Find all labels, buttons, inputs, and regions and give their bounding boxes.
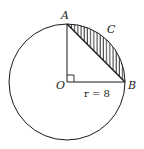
label-C: C (107, 23, 116, 36)
label-radius: r = 8 (84, 88, 110, 99)
geometry-diagram: A C O B r = 8 (0, 0, 144, 149)
label-B: B (127, 79, 136, 92)
label-O: O (56, 79, 65, 92)
label-A: A (60, 9, 69, 22)
right-angle-marker (67, 75, 74, 82)
